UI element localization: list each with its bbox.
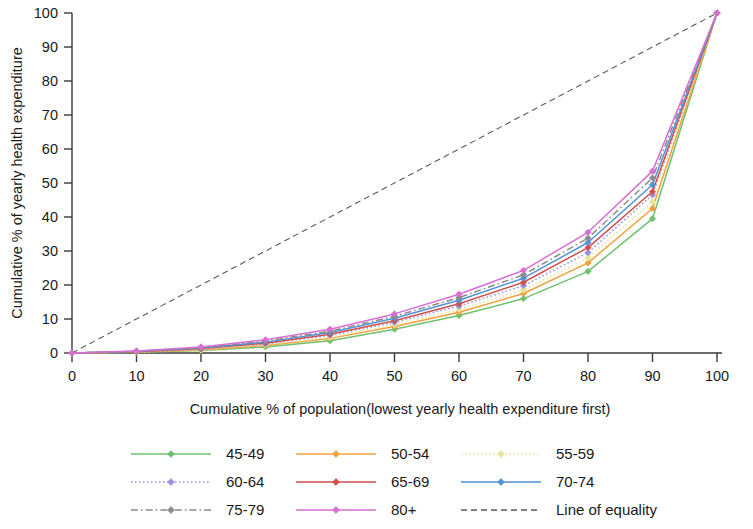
x-tick-label: 40 xyxy=(322,368,338,384)
legend-label: 55-59 xyxy=(556,445,594,462)
y-tick-label: 100 xyxy=(34,5,58,21)
x-tick-label: 50 xyxy=(386,368,402,384)
chart-legend: 45-4950-5455-5960-6465-6970-7475-7980+Li… xyxy=(131,445,657,518)
legend-item-70-74[interactable]: 70-74 xyxy=(461,473,594,490)
y-tick-label: 30 xyxy=(42,243,58,259)
y-axis-ticks: 0102030405060708090100 xyxy=(34,5,72,361)
y-tick-label: 60 xyxy=(42,141,58,157)
x-tick-label: 80 xyxy=(580,368,596,384)
x-tick-label: 70 xyxy=(515,368,531,384)
legend-swatch-marker xyxy=(168,507,175,514)
x-tick-label: 100 xyxy=(705,368,729,384)
legend-label: 45-49 xyxy=(226,445,264,462)
x-tick-label: 0 xyxy=(68,368,76,384)
legend-label: 80+ xyxy=(391,501,417,518)
legend-label: 65-69 xyxy=(391,473,429,490)
legend-label: 60-64 xyxy=(226,473,264,490)
legend-item-50-54[interactable]: 50-54 xyxy=(296,445,429,462)
legend-item-65-69[interactable]: 65-69 xyxy=(296,473,429,490)
x-axis-ticks: 0102030405060708090100 xyxy=(68,353,729,384)
legend-item-55-59[interactable]: 55-59 xyxy=(461,445,594,462)
legend-swatch-marker xyxy=(168,479,175,486)
legend-swatch-marker xyxy=(333,479,340,486)
data-series-layer xyxy=(69,10,720,356)
data-point-marker xyxy=(69,350,75,356)
y-tick-label: 20 xyxy=(42,277,58,293)
y-tick-label: 90 xyxy=(42,39,58,55)
y-tick-label: 10 xyxy=(42,311,58,327)
legend-item-75-79[interactable]: 75-79 xyxy=(131,501,264,518)
x-tick-label: 10 xyxy=(128,368,144,384)
legend-swatch-marker xyxy=(333,451,340,458)
x-axis-title: Cumulative % of population(lowest yearly… xyxy=(190,401,611,417)
legend-swatch-marker xyxy=(498,451,505,458)
data-point-marker xyxy=(520,267,526,273)
y-tick-label: 50 xyxy=(42,175,58,191)
legend-item-line-of-equality[interactable]: Line of equality xyxy=(461,501,657,518)
legend-label: 75-79 xyxy=(226,501,264,518)
legend-item-60-64[interactable]: 60-64 xyxy=(131,473,264,490)
legend-label: 70-74 xyxy=(556,473,594,490)
legend-swatch-marker xyxy=(168,451,175,458)
x-tick-label: 90 xyxy=(644,368,660,384)
y-tick-label: 80 xyxy=(42,73,58,89)
x-tick-label: 20 xyxy=(193,368,209,384)
y-tick-label: 70 xyxy=(42,107,58,123)
chart-canvas: 0102030405060708090100 01020304050607080… xyxy=(0,0,753,529)
y-tick-label: 40 xyxy=(42,209,58,225)
line-of-equality xyxy=(72,13,717,353)
data-point-marker xyxy=(714,10,720,16)
y-tick-label: 0 xyxy=(50,345,58,361)
legend-label: 50-54 xyxy=(391,445,429,462)
legend-swatch-marker xyxy=(333,507,340,514)
legend-label: Line of equality xyxy=(556,501,657,518)
x-tick-label: 60 xyxy=(451,368,467,384)
lorenz-curve-figure: 0102030405060708090100 01020304050607080… xyxy=(0,0,753,529)
x-tick-label: 30 xyxy=(257,368,273,384)
legend-swatch-marker xyxy=(498,479,505,486)
y-axis-title: Cumulative % of yearly health expenditur… xyxy=(9,47,25,319)
legend-item-45-49[interactable]: 45-49 xyxy=(131,445,264,462)
legend-item-80[interactable]: 80+ xyxy=(296,501,417,518)
